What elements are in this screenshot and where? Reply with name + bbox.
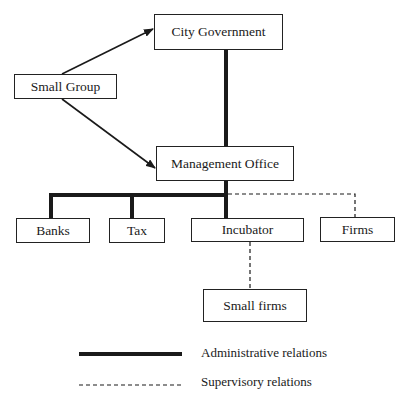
legend-supervisory-label: Supervisory relations [201, 374, 312, 390]
node-city-government: City Government [154, 14, 283, 50]
arrow-small-group-to-city-government [62, 29, 153, 74]
org-diagram: City Government Small Group Management O… [0, 0, 409, 400]
connector-layer [0, 0, 409, 400]
node-firms: Firms [320, 217, 395, 242]
node-banks-label: Banks [36, 223, 70, 239]
node-banks: Banks [16, 218, 90, 243]
node-firms-label: Firms [342, 222, 374, 238]
node-tax: Tax [109, 218, 165, 243]
arrow-small-group-to-management-office [62, 99, 155, 168]
node-management-office: Management Office [156, 146, 294, 181]
node-small-group: Small Group [14, 74, 117, 99]
node-city-government-label: City Government [171, 24, 265, 40]
node-incubator: Incubator [191, 218, 304, 242]
legend-administrative-label: Administrative relations [201, 345, 327, 361]
node-management-office-label: Management Office [171, 156, 279, 172]
node-tax-label: Tax [127, 223, 147, 239]
node-small-group-label: Small Group [31, 79, 100, 95]
supervisory-line-to-firms [228, 194, 355, 217]
node-small-firms-label: Small firms [223, 298, 286, 314]
node-small-firms: Small firms [203, 289, 307, 322]
node-incubator-label: Incubator [222, 222, 274, 238]
